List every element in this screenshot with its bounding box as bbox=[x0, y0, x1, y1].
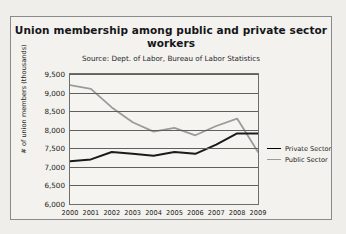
x-tick-label: 2003 bbox=[124, 209, 141, 217]
y-tick-label: 9,000 bbox=[31, 88, 65, 97]
y-axis-ticks: 9,5009,0008,5008,0007,5007,0006,5006,000 bbox=[31, 17, 65, 219]
plot-wrapper: # of union members (thousands) 9,5009,00… bbox=[11, 17, 331, 219]
legend-item-public-sector: Public Sector bbox=[267, 154, 331, 165]
x-tick-label: 2007 bbox=[208, 209, 225, 217]
y-tick-label: 6,500 bbox=[31, 181, 65, 190]
x-tick-label: 2004 bbox=[145, 209, 162, 217]
y-tick-label: 6,000 bbox=[31, 200, 65, 209]
x-tick-label: 2001 bbox=[82, 209, 99, 217]
gridline bbox=[70, 93, 258, 94]
y-tick-label: 8,000 bbox=[31, 125, 65, 134]
legend-swatch-public-icon bbox=[267, 159, 281, 160]
line-public-sector bbox=[70, 85, 258, 152]
y-axis-label: # of union members (thousands) bbox=[20, 39, 28, 159]
legend-item-private-sector: Private Sector bbox=[267, 143, 331, 154]
x-tick-label: 2006 bbox=[187, 209, 204, 217]
x-tick-label: 2002 bbox=[103, 209, 120, 217]
gridline bbox=[70, 148, 258, 149]
plot-area bbox=[69, 73, 259, 205]
gridline bbox=[70, 185, 258, 186]
y-tick-label: 8,500 bbox=[31, 107, 65, 116]
gridline bbox=[70, 130, 258, 131]
y-tick-label: 7,000 bbox=[31, 162, 65, 171]
gridline bbox=[70, 167, 258, 168]
y-tick-label: 7,500 bbox=[31, 144, 65, 153]
x-tick-label: 2008 bbox=[229, 209, 246, 217]
y-tick-label: 9,500 bbox=[31, 70, 65, 79]
chart-frame: Union membership among public and privat… bbox=[10, 16, 332, 220]
legend-label-public-sector: Public Sector bbox=[285, 156, 328, 164]
legend-label-private-sector: Private Sector bbox=[285, 145, 331, 153]
gridline bbox=[70, 74, 258, 75]
legend-swatch-private-icon bbox=[267, 148, 281, 149]
chart-legend: Private Sector Public Sector bbox=[267, 143, 331, 165]
x-tick-label: 2009 bbox=[250, 209, 267, 217]
gridline bbox=[70, 111, 258, 112]
x-tick-label: 2005 bbox=[166, 209, 183, 217]
x-tick-label: 2000 bbox=[62, 209, 79, 217]
